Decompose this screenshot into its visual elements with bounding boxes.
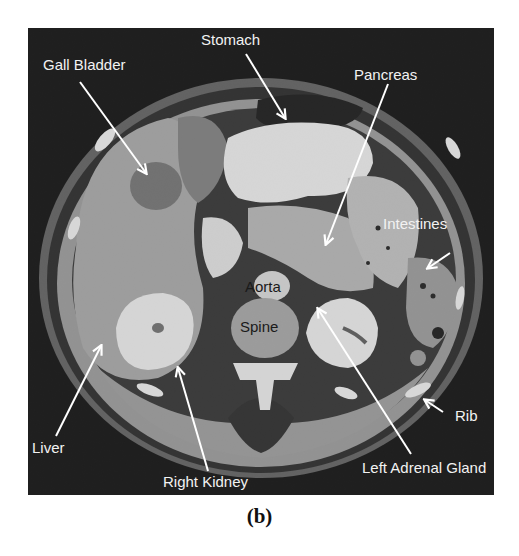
figure-caption: (b) bbox=[0, 504, 519, 529]
label-right-kidney: Right Kidney bbox=[163, 474, 248, 490]
label-liver: Liver bbox=[32, 440, 65, 456]
ct-scan-image: Gall Bladder Stomach Pancreas Intestines… bbox=[28, 28, 494, 495]
label-intestines: Intestines bbox=[383, 216, 447, 232]
label-rib: Rib bbox=[455, 408, 478, 424]
label-aorta: Aorta bbox=[245, 279, 281, 295]
label-left-adrenal-gland: Left Adrenal Gland bbox=[362, 460, 486, 476]
label-spine: Spine bbox=[240, 319, 278, 335]
ct-scan-drawing bbox=[28, 28, 494, 495]
label-pancreas: Pancreas bbox=[354, 67, 417, 83]
ct-figure: Gall Bladder Stomach Pancreas Intestines… bbox=[0, 0, 519, 556]
label-gall-bladder: Gall Bladder bbox=[43, 57, 126, 73]
label-stomach: Stomach bbox=[201, 32, 260, 48]
body-cross-section bbox=[28, 28, 494, 495]
